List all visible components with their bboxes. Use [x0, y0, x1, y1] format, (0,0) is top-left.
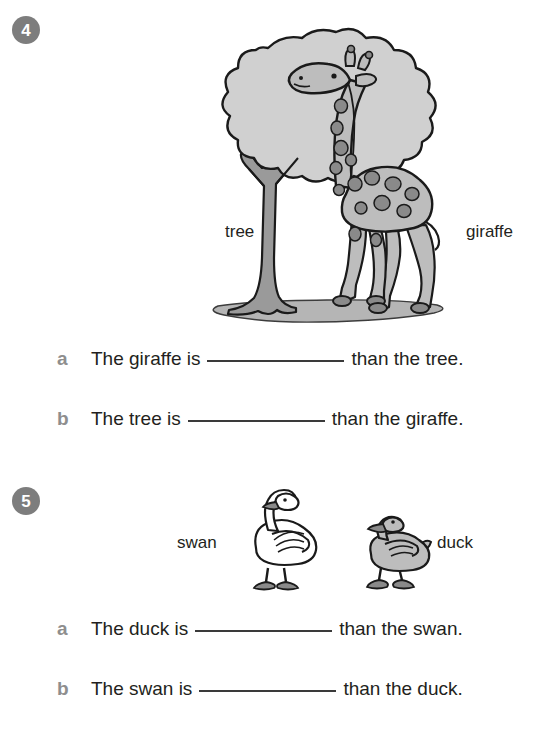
question-number-badge-5: 5 — [12, 487, 40, 515]
sentence-after-5b: than the duck. — [343, 678, 462, 700]
swan-eye — [283, 498, 287, 502]
giraffe-hoof — [333, 296, 351, 306]
sentence-row-4b: b The tree is than the giraffe. — [57, 408, 463, 430]
swan-foot — [277, 582, 298, 590]
sentence-after-5a: than the swan. — [339, 618, 463, 640]
giraffe-ear — [356, 74, 376, 86]
sentence-before-5b: The swan is — [91, 678, 192, 700]
sentence-after-4b: than the giraffe. — [332, 408, 464, 430]
sentence-text-4a: The giraffe is than the tree. — [91, 348, 463, 370]
giraffe-head — [289, 63, 350, 93]
giraffe-eye — [331, 73, 336, 78]
sentence-text-5a: The duck is than the swan. — [91, 618, 463, 640]
sentence-text-5b: The swan is than the duck. — [91, 678, 463, 700]
question-number-badge-4: 4 — [12, 16, 40, 44]
duck-foot — [393, 580, 414, 589]
sentence-row-5a: a The duck is than the swan. — [57, 618, 463, 640]
tree-and-giraffe-illustration — [150, 18, 480, 328]
swan-body — [255, 520, 316, 565]
duck-beak — [368, 524, 386, 532]
duck-illustration — [355, 512, 435, 594]
giraffe-label: giraffe — [466, 222, 513, 242]
answer-blank-4a[interactable] — [207, 360, 344, 362]
row-marker-b: b — [57, 408, 91, 430]
sentence-row-5b: b The swan is than the duck. — [57, 678, 463, 700]
sentence-text-4b: The tree is than the giraffe. — [91, 408, 463, 430]
row-marker-a: a — [57, 618, 91, 640]
swan-foot — [254, 582, 275, 590]
answer-blank-5a[interactable] — [195, 630, 332, 632]
duck-foot — [367, 580, 388, 589]
swan-illustration — [238, 484, 326, 592]
swan-label: swan — [177, 533, 217, 553]
sentence-before-5a: The duck is — [91, 618, 188, 640]
sentence-row-4a: a The giraffe is than the tree. — [57, 348, 463, 370]
row-marker-b: b — [57, 678, 91, 700]
giraffe-nostril — [299, 76, 303, 80]
sentence-after-4a: than the tree. — [351, 348, 463, 370]
giraffe-hoof — [411, 303, 429, 313]
sentence-before-4a: The giraffe is — [91, 348, 200, 370]
row-marker-a: a — [57, 348, 91, 370]
sentence-before-4b: The tree is — [91, 408, 181, 430]
tree-label: tree — [225, 222, 254, 242]
giraffe-back-leg — [406, 225, 435, 308]
tree-canopy — [222, 29, 435, 181]
answer-blank-5b[interactable] — [199, 690, 336, 692]
giraffe-horn-tip — [366, 52, 373, 59]
giraffe-hoof — [369, 303, 387, 313]
duck-label: duck — [437, 533, 473, 553]
answer-blank-4b[interactable] — [188, 420, 325, 422]
swan-legs — [266, 568, 286, 582]
giraffe-horn-tip — [348, 46, 355, 53]
duck-eye — [391, 520, 395, 524]
